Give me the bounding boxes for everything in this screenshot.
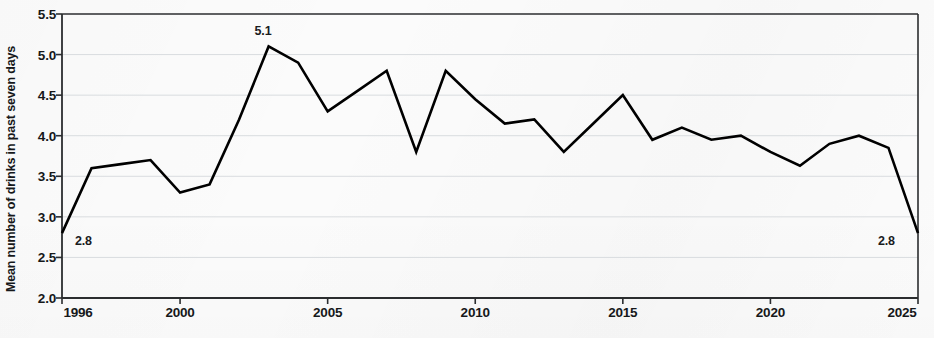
tick-marks-group: [56, 14, 918, 304]
data-series-line: [62, 46, 918, 233]
data-point-label: 2.8: [75, 234, 92, 248]
data-point-label: 5.1: [255, 24, 272, 38]
x-tick-label: 2000: [165, 305, 194, 320]
chart-container: Mean number of drinks in past seven days…: [0, 0, 934, 338]
x-tick-label: 2005: [313, 305, 342, 320]
x-tick-label: 1996: [63, 305, 92, 320]
data-point-label: 2.8: [878, 234, 895, 248]
x-axis-tick-labels: 1996200020052010201520202025: [0, 305, 934, 329]
line-chart-plot: [0, 0, 934, 338]
x-tick-label: 2020: [756, 305, 785, 320]
axis-frame-group: [62, 14, 918, 298]
x-tick-label: 2010: [461, 305, 490, 320]
x-tick-label: 2025: [887, 305, 916, 320]
gridlines-group: [62, 55, 918, 258]
x-tick-label: 2015: [608, 305, 637, 320]
